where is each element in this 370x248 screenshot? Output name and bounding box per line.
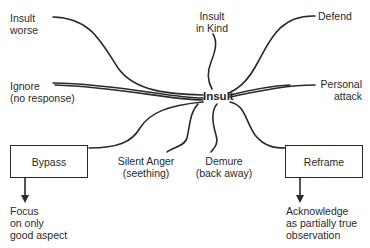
label-line: attack <box>310 90 362 102</box>
label-line: Focus <box>10 205 67 217</box>
label-line: Personal <box>310 78 362 90</box>
label-line: Defend <box>318 10 352 22</box>
outcome-bypass: Focus on only good aspect <box>10 205 67 241</box>
label-line: Silent Anger <box>114 155 178 167</box>
label-ignore: Ignore (no response) <box>10 80 75 104</box>
label-line: in Kind <box>190 22 234 34</box>
label-demure: Demure (back away) <box>192 155 256 179</box>
label-line: good aspect <box>10 229 67 241</box>
label-line: observation <box>286 229 357 241</box>
center-node-insult: Insult <box>203 90 234 102</box>
arrow-bypass-head <box>21 195 29 203</box>
label-insult-in-kind: Insult in Kind <box>190 10 234 34</box>
label-line: Insult <box>190 10 234 22</box>
label-line: on only <box>10 217 67 229</box>
label-line: Insult <box>10 12 38 24</box>
label-insult-worse: Insult worse <box>10 12 38 36</box>
box-reframe: Reframe <box>285 145 363 178</box>
line-insult-in-kind <box>208 34 215 89</box>
box-bypass: Bypass <box>10 145 88 178</box>
label-line: Ignore <box>10 80 75 92</box>
label-line: (back away) <box>192 167 256 179</box>
label-personal-attack: Personal attack <box>310 78 362 102</box>
box-reframe-label: Reframe <box>304 156 344 168</box>
label-line: Demure <box>192 155 256 167</box>
line-ignore <box>53 83 203 98</box>
line-silent-anger <box>167 104 198 152</box>
label-line: worse <box>10 24 38 36</box>
label-line: as partially true <box>286 217 357 229</box>
line-demure <box>211 104 217 152</box>
label-defend: Defend <box>318 10 352 22</box>
arrow-reframe-head <box>296 195 304 203</box>
label-line: (no response) <box>10 92 75 104</box>
line-ignore-b <box>55 85 203 100</box>
label-line: Acknowledge <box>286 205 357 217</box>
line-defend <box>229 16 315 93</box>
line-reframe <box>230 102 285 148</box>
label-line: (seething) <box>114 167 178 179</box>
box-bypass-label: Bypass <box>32 156 66 168</box>
label-silent-anger: Silent Anger (seething) <box>114 155 178 179</box>
outcome-reframe: Acknowledge as partially true observatio… <box>286 205 357 241</box>
